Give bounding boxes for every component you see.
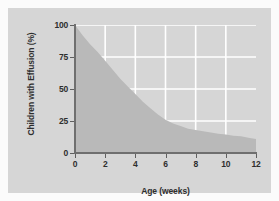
- x-tick-mark: [226, 154, 227, 158]
- y-tick-mark: [70, 153, 74, 154]
- x-tick-mark: [166, 154, 167, 158]
- x-tick-mark: [135, 154, 136, 158]
- figure: 0255075100 024681012 Children with Effus…: [0, 0, 279, 201]
- y-axis-title: Children with Effusion (%): [26, 24, 36, 144]
- y-axis-line: [74, 24, 76, 154]
- y-axis-tick-labels: 0255075100: [44, 8, 68, 201]
- x-tick-label: 4: [125, 159, 145, 169]
- x-tick-mark: [256, 154, 257, 158]
- y-tick-mark: [70, 121, 74, 122]
- x-tick-label: 8: [186, 159, 206, 169]
- x-tick-label: 12: [246, 159, 266, 169]
- y-tick-mark: [70, 25, 74, 26]
- plot-svg: [75, 25, 256, 153]
- x-axis-title: Age (weeks): [75, 186, 256, 196]
- y-tick-label: 25: [46, 117, 68, 126]
- x-tick-mark: [196, 154, 197, 158]
- y-tick-label: 100: [46, 21, 68, 30]
- y-tick-mark: [70, 57, 74, 58]
- y-tick-label: 0: [46, 149, 68, 158]
- x-tick-mark: [105, 154, 106, 158]
- x-tick-label: 6: [156, 159, 176, 169]
- x-tick-mark: [75, 154, 76, 158]
- y-tick-label: 50: [46, 85, 68, 94]
- x-tick-label: 0: [65, 159, 85, 169]
- x-tick-label: 2: [95, 159, 115, 169]
- y-tick-label: 75: [46, 53, 68, 62]
- y-tick-mark: [70, 89, 74, 90]
- x-tick-label: 10: [216, 159, 236, 169]
- plot-area: [75, 25, 256, 153]
- chart-panel: 0255075100 024681012 Children with Effus…: [8, 8, 271, 193]
